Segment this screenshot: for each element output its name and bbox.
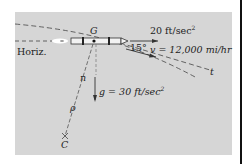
label-velocity: v = 12,000 mi/hr bbox=[150, 45, 232, 55]
rocket-diagram bbox=[0, 0, 245, 164]
normal-line bbox=[65, 44, 93, 136]
label-angle: 15° bbox=[130, 43, 147, 53]
label-normal: n bbox=[80, 73, 86, 83]
label-thrust-accel: 20 ft/sec2 bbox=[150, 26, 195, 36]
label-horizontal: Horiz. bbox=[17, 47, 47, 57]
label-g-center: G bbox=[90, 26, 98, 36]
thrust-arrowhead bbox=[152, 39, 158, 43]
label-gravity: g = 30 ft/sec2 bbox=[99, 87, 164, 97]
gravity-arrowhead bbox=[93, 95, 97, 102]
label-tangent: t bbox=[210, 67, 214, 77]
rocket-icon bbox=[71, 37, 128, 45]
label-radius: ρ bbox=[70, 103, 76, 113]
label-center-curvature: C bbox=[61, 140, 68, 150]
